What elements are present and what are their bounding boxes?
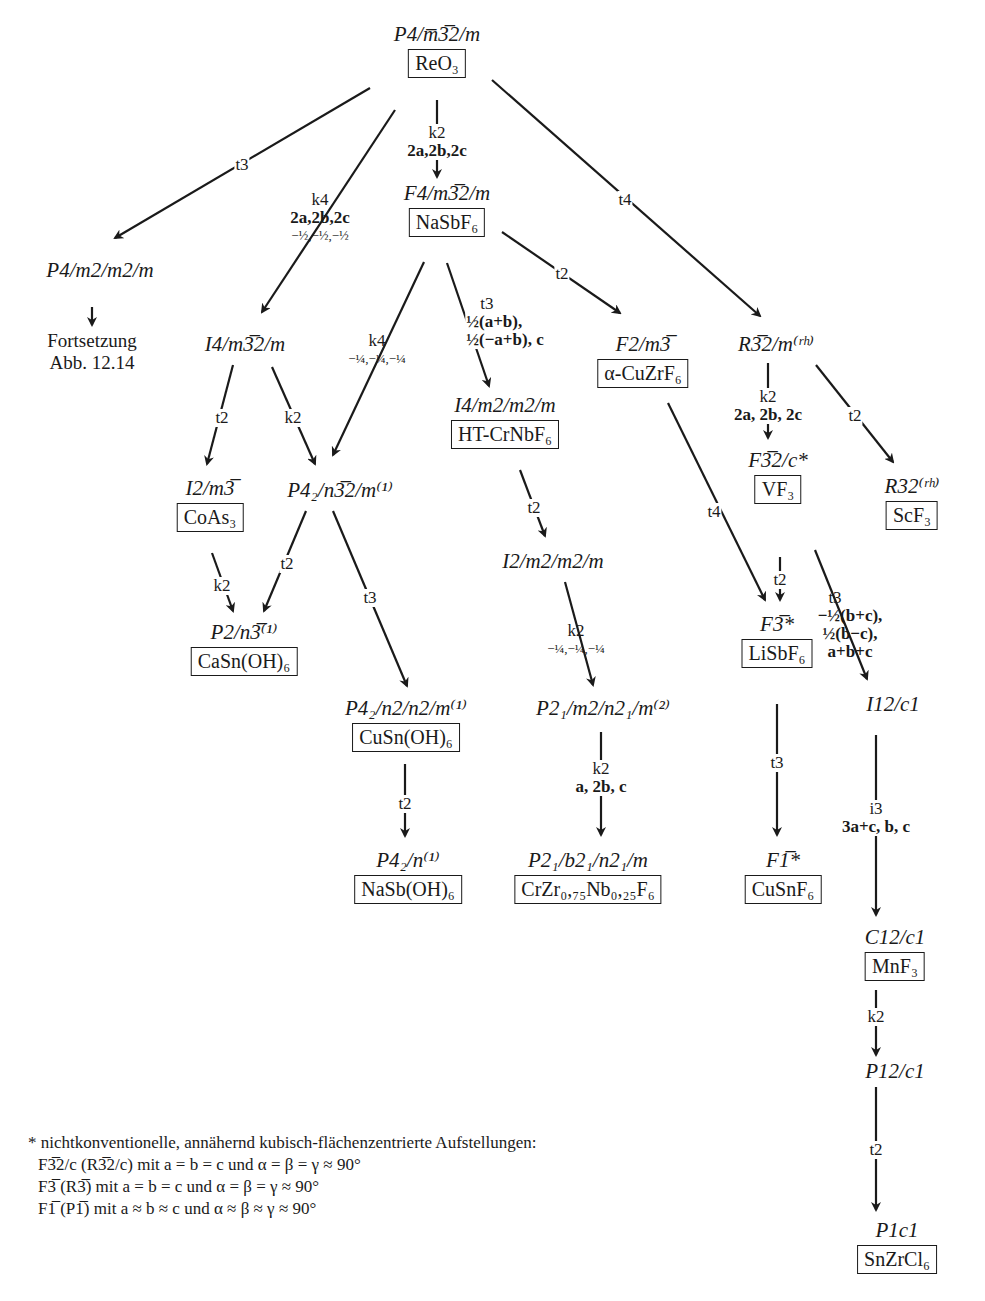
edge-index-label: t3 [818,589,883,607]
node-p42nnm: P4₂/n2/n2/m⁽¹⁾ CuSn(OH)₆ [345,696,467,752]
edge-index-label: t3 [234,156,249,174]
edge-label-immm-pmnm: k2 −¼,−¼,−¼ [546,622,606,658]
space-group-label: F2/m3̅ [597,332,688,356]
space-group-label: P2₁/b2₁/n2₁/m [514,848,661,872]
edge-index-label: t2 [772,571,787,589]
node-r32m: R3̅2/m⁽ʳʰ⁾ [738,332,814,356]
edge-label-f32c-i2c: t3 −½(b+c), ½(b−c), a+b+c [817,589,884,661]
edge-label-pmnm-pbnm: k2 a, 2b, c [575,760,628,796]
edge-index-label: k2 [284,409,303,427]
group-subgroup-tree: P4/m̅3̅2/m ReO₃ P4/m2/m2/m Fortsetzung A… [0,0,985,1301]
node-f3: F3̅* LiSbF₆ [742,612,813,668]
basis-transformation-2: ½(−a+b), c [466,331,543,349]
basis-transformation: a, 2b, c [576,778,627,796]
node-reo3: P4/m̅3̅2/m ReO₃ [394,22,480,78]
node-p2c: P12/c1 [865,1059,924,1083]
node-pc: P1c1 SnZrCl₆ [857,1218,937,1274]
edge-label-nasbf6-p42n32m: k4 −¼,−¼,−¼ [347,332,407,368]
edge-label-r32m-f32c: k2 2a, 2b, 2c [733,388,803,424]
space-group-label: R32⁽ʳʰ⁾ [885,474,940,498]
space-group-label: P4/m̅3̅2/m [394,22,480,46]
node-f1: F1̅* CuSnF₆ [745,848,822,904]
node-c2c: C12/c1 MnF₃ [865,925,926,981]
edge-label-nasbf6-i4mmm: t3 ½(a+b), ½(−a+b), c [465,295,544,349]
space-group-label: P1c1 [857,1218,937,1242]
compound-box: CaSn(OH)₆ [191,647,298,676]
basis-transformation-1: ½(a+b), [466,313,543,331]
edge-label-reo3-i4m32m: k4 2a,2b,2c −½,−½,−½ [289,191,351,245]
space-group-label: C12/c1 [865,925,926,949]
basis-transformation-3: a+b+c [818,643,883,661]
edge-index-label: t3 [769,754,784,772]
continuation-text: Fortsetzung [47,330,137,352]
edge-index-label: k4 [348,332,406,350]
space-group-label: I2/m3̅ [177,476,244,500]
node-i2c: I12/c1 [866,692,920,716]
edge-index-label: k2 [547,622,605,640]
space-group-label: P4₂/n2/n2/m⁽¹⁾ [345,696,467,720]
compound-box: NaSbF₆ [409,208,486,237]
compound-box: LiSbF₆ [742,639,813,668]
edge-index-label: t2 [868,1141,883,1159]
compound-box: VF₃ [755,475,802,504]
node-p2n3: P2/n3̅⁽¹⁾ CaSn(OH)₆ [191,620,298,676]
space-group-label: P2/n3̅⁽¹⁾ [191,620,298,644]
edge-index-label: t2 [847,407,862,425]
space-group-label: I4/m3̅2/m [205,332,286,356]
edge-index-label: t2 [214,409,229,427]
compound-box: ScF₃ [886,501,938,530]
node-pbnm: P2₁/b2₁/n2₁/m CrZr₀,₇₅Nb₀,₂₅F₆ [514,848,661,904]
space-group-label: P4₂/n3̅2/m⁽¹⁾ [287,478,393,502]
compound-box: SnZrCl₆ [857,1245,937,1274]
node-p42n32m: P4₂/n3̅2/m⁽¹⁾ [287,478,393,502]
space-group-label: P12/c1 [865,1059,924,1083]
edge-index-label: k2 [734,388,802,406]
node-i4m32m: I4/m3̅2/m [205,332,286,356]
node-i4mmm: I4/m2/m2/m HT-CrNbF₆ [451,393,559,449]
space-group-label: P4/m2/m2/m [46,258,153,282]
edge-index-label: k2 [213,577,232,595]
footnote-line-1: F3̅2/c (R3̅2/c) mit a = b = c und α = β … [28,1154,536,1176]
edge-index-label: k4 [290,191,350,209]
compound-box: CuSn(OH)₆ [352,723,460,752]
edge-index-label: k2 [867,1008,886,1026]
node-p42n: P4₂/n⁽¹⁾ NaSb(OH)₆ [354,848,462,904]
basis-transformation: 3a+c, b, c [842,818,910,836]
compound-box: ReO₃ [408,49,466,78]
edge-index-label: t2 [554,265,569,283]
edge-label-reo3-nasbf6: k2 2a,2b,2c [406,124,468,160]
edge-label-i2c-c2c: i3 3a+c, b, c [841,800,911,836]
node-p4mmm: P4/m2/m2/m [46,258,153,282]
node-nasbf6: F4/m3̅2/m NaSbF₆ [404,181,490,237]
basis-transformation: 2a,2b,2c [290,209,350,227]
footnote-line-3: F1̅ (P1̅) mit a ≈ b ≈ c und α ≈ β ≈ γ ≈ … [28,1198,536,1220]
space-group-label: R3̅2/m⁽ʳʰ⁾ [738,332,814,356]
compound-box: CrZr₀,₇₅Nb₀,₂₅F₆ [514,875,661,904]
origin-shift: −¼,−¼,−¼ [348,350,406,368]
space-group-label: I12/c1 [866,692,920,716]
edge-index-label: t4 [617,191,632,209]
node-pmnm: P2₁/m2/n2₁/m⁽²⁾ [536,696,670,720]
space-group-label: P2₁/m2/n2₁/m⁽²⁾ [536,696,670,720]
basis-transformation: 2a,2b,2c [407,142,467,160]
edge-index-label: k2 [407,124,467,142]
edge-index-label: k2 [576,760,627,778]
footnote: * nichtkonventionelle, annähernd kubisch… [28,1132,536,1220]
origin-shift: −¼,−¼,−¼ [547,640,605,658]
space-group-label: F1̅* [745,848,822,872]
compound-box: NaSb(OH)₆ [354,875,462,904]
basis-transformation-2: ½(b−c), [818,625,883,643]
figure-reference: Abb. 12.14 [47,352,137,374]
basis-transformation: 2a, 2b, 2c [734,406,802,424]
space-group-label: F3̅* [742,612,813,636]
edge-index-label: t2 [526,499,541,517]
origin-shift: −½,−½,−½ [290,227,350,245]
space-group-label: F3̅2/c* [748,448,807,472]
node-f2m3: F2/m3̅ α-CuZrF₆ [597,332,688,388]
edge-index-label: t2 [397,795,412,813]
node-r32: R32⁽ʳʰ⁾ ScF₃ [885,474,940,530]
footnote-line-2: F3̅ (R3̅) mit a = b = c und α = β = γ ≈ … [28,1176,536,1198]
edge-index-label: t4 [706,503,721,521]
space-group-label: I4/m2/m2/m [451,393,559,417]
edge-index-label: i3 [842,800,910,818]
